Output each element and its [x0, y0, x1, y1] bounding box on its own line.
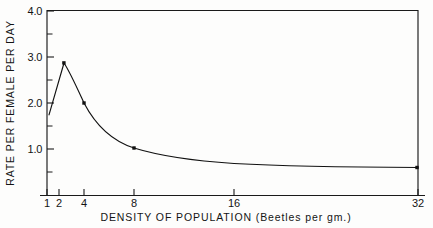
x-tick-label-1: 1 [44, 197, 50, 209]
x-tick-label-2: 2 [56, 197, 62, 209]
y-tick-label-4: 4.0 [28, 5, 43, 17]
data-curve [49, 63, 418, 168]
x-tick-label-32: 32 [412, 197, 424, 209]
plot-frame [47, 11, 418, 196]
data-marker-32 [415, 166, 418, 169]
y-axis-title: RATE PER FEMALE PER DAY [4, 20, 16, 186]
x-tick-label-16: 16 [228, 197, 240, 209]
y-tick-label-3: 3.0 [28, 51, 43, 63]
data-marker-4 [82, 101, 85, 104]
x-tick-label-8: 8 [131, 197, 137, 209]
chart-plot-area: 4.0 3.0 2.0 1.0 1 2 4 8 16 32 DENSI [0, 0, 433, 228]
x-axis-title: DENSITY OF POPULATION (Beetles per gm.) [100, 211, 351, 223]
data-marker-8 [132, 146, 135, 149]
data-markers [62, 61, 418, 169]
y-tick-label-2: 2.0 [28, 97, 43, 109]
y-tick-label-1: 1.0 [28, 143, 43, 155]
chart-figure: 4.0 3.0 2.0 1.0 1 2 4 8 16 32 DENSI [0, 0, 433, 228]
x-tick-label-4: 4 [81, 197, 87, 209]
x-axis-ticks [47, 189, 418, 196]
data-marker-peak [62, 61, 65, 64]
